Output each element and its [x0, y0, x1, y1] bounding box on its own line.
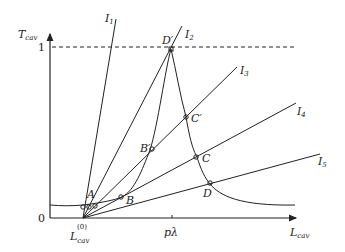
x-axis-label: Lcav	[289, 226, 309, 240]
label-I4: I4	[296, 105, 306, 119]
x-tick-p-lambda: pλ	[164, 226, 178, 239]
y-tick-one: 1	[38, 41, 45, 54]
curve-falling	[171, 49, 295, 205]
x-tick-start-sup: (0)	[77, 223, 87, 231]
origin-label: 0	[38, 212, 45, 225]
curve-left-tail	[50, 205, 83, 206]
label-A: A	[86, 188, 95, 201]
label-C-prime: C′	[191, 112, 202, 125]
label-C: C	[202, 152, 211, 165]
ray-I2	[83, 26, 182, 218]
label-D: D	[202, 187, 212, 200]
label-B-prime: B′	[139, 142, 151, 155]
label-I2: I2	[184, 28, 194, 42]
label-I1: I1	[104, 12, 114, 26]
diagram-canvas: Tcav 1 0 Lcav (0) pλ Lcav I1 I2 I3 I4 I5…	[0, 0, 345, 252]
x-tick-start: Lcav	[69, 230, 89, 245]
label-I3: I3	[239, 64, 249, 78]
ray-I4	[83, 103, 296, 218]
label-B: B	[125, 194, 134, 207]
ray-I3	[83, 67, 237, 218]
label-I5: I5	[317, 155, 327, 169]
y-axis-label: Tcav	[18, 28, 37, 42]
label-D-prime: D′	[161, 34, 174, 47]
